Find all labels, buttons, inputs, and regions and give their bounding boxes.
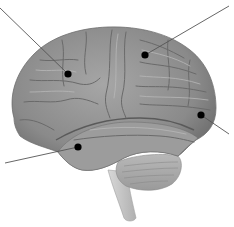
brain-diagram <box>0 0 234 227</box>
callout-dot-3[interactable] <box>197 111 204 118</box>
callout-dot-4[interactable] <box>74 143 81 150</box>
cerebellum <box>116 154 181 190</box>
callout-dot-2[interactable] <box>141 51 148 58</box>
brain-illustration <box>0 0 234 227</box>
callout-dot-1[interactable] <box>64 70 71 77</box>
